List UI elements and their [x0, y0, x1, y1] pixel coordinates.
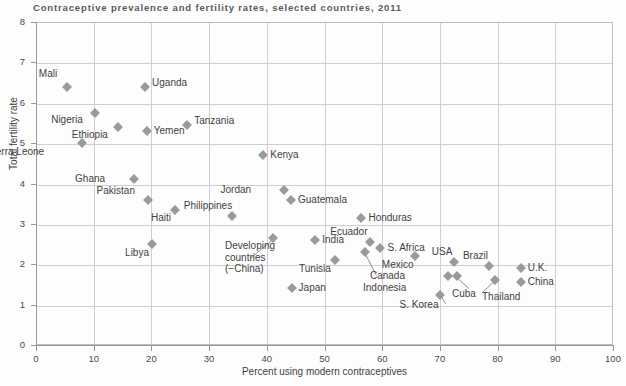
x-tick-label: 40: [252, 353, 282, 364]
y-tick-label: 2: [3, 258, 25, 269]
y-tick-label: 1: [3, 299, 25, 310]
x-tick-mark: [498, 346, 499, 351]
y-axis-line: [36, 22, 37, 346]
gridline-vertical: [267, 23, 268, 344]
gridline-horizontal: [37, 104, 612, 105]
data-point-label: Ghana: [75, 173, 105, 185]
gridline-horizontal: [37, 144, 612, 145]
gridline-vertical: [555, 23, 556, 344]
data-point-label: Japan: [299, 282, 326, 294]
data-point-label: Indonesia: [363, 282, 406, 294]
x-tick-label: 50: [310, 353, 340, 364]
y-tick-mark: [31, 345, 36, 346]
y-tick-mark: [31, 103, 36, 104]
data-point-label: Yemen: [154, 125, 185, 137]
data-point-label: U.K.: [528, 262, 547, 274]
gridline-horizontal: [37, 63, 612, 64]
x-tick-label: 20: [136, 353, 166, 364]
data-point-label: Sierra Leone: [0, 146, 44, 158]
data-point-label: Kenya: [270, 149, 298, 161]
gridline-horizontal: [37, 306, 612, 307]
data-point-label: Philippines: [184, 200, 232, 212]
x-tick-mark: [440, 346, 441, 351]
data-point-label: Mali: [39, 68, 57, 80]
y-tick-label: 3: [3, 218, 25, 229]
y-tick-label: 6: [3, 97, 25, 108]
gridline-vertical: [151, 23, 152, 344]
data-point-label: Pakistan: [97, 185, 135, 197]
x-tick-label: 90: [540, 353, 570, 364]
x-tick-label: 70: [425, 353, 455, 364]
data-point-label: Thailand: [482, 291, 520, 303]
x-tick-mark: [325, 346, 326, 351]
y-tick-mark: [31, 62, 36, 63]
x-tick-mark: [94, 346, 95, 351]
data-point-label: Libya: [125, 247, 149, 259]
data-point-label: Cuba: [452, 288, 476, 300]
y-axis-label: Total fertility rate: [8, 74, 19, 194]
gridline-vertical: [325, 23, 326, 344]
data-point-label: Tunisia: [299, 263, 331, 275]
y-tick-mark: [31, 224, 36, 225]
y-tick-mark: [31, 305, 36, 306]
data-point-label: USA: [432, 246, 453, 258]
data-point-label: Mexico: [382, 259, 414, 271]
x-tick-label: 30: [194, 353, 224, 364]
data-point-label: Uganda: [152, 77, 187, 89]
data-point-label: Nigeria: [51, 114, 83, 126]
y-tick-mark: [31, 184, 36, 185]
y-tick-label: 0: [3, 339, 25, 350]
x-axis-label: Percent using modern contraceptives: [36, 366, 613, 377]
x-tick-label: 80: [483, 353, 513, 364]
data-point-label: Jordan: [221, 184, 252, 196]
data-point-label: Honduras: [368, 212, 411, 224]
y-tick-label: 8: [3, 16, 25, 27]
data-point-label: Brazil: [463, 250, 488, 262]
y-tick-label: 4: [3, 178, 25, 189]
gridline-horizontal: [37, 225, 612, 226]
x-tick-label: 60: [367, 353, 397, 364]
x-tick-mark: [209, 346, 210, 351]
data-point-label: Tanzania: [194, 115, 234, 127]
x-tick-mark: [555, 346, 556, 351]
chart-title: Contraceptive prevalence and fertility r…: [33, 2, 402, 13]
data-point-label: S. Korea: [400, 299, 439, 311]
x-tick-label: 10: [79, 353, 109, 364]
data-point-label: S. Africa: [387, 242, 424, 254]
x-tick-label: 0: [21, 353, 51, 364]
x-tick-label: 100: [598, 353, 626, 364]
x-tick-mark: [613, 346, 614, 351]
data-point-label: Ethiopia: [72, 129, 108, 141]
gridline-vertical: [209, 23, 210, 344]
gridline-vertical: [382, 23, 383, 344]
plot-area: [36, 22, 613, 345]
y-tick-mark: [31, 143, 36, 144]
chart-figure: Contraceptive prevalence and fertility r…: [0, 0, 626, 386]
y-tick-mark: [31, 22, 36, 23]
y-tick-mark: [31, 264, 36, 265]
y-tick-label: 7: [3, 56, 25, 67]
data-point-label: China: [528, 276, 554, 288]
data-point-label: Canada: [370, 270, 405, 282]
x-tick-mark: [267, 346, 268, 351]
data-point-label: Guatemala: [298, 194, 347, 206]
x-tick-mark: [151, 346, 152, 351]
data-point-label: Haiti: [151, 212, 171, 224]
data-point-label: Ecuador: [330, 226, 367, 238]
data-point-label: Developingcountries(−China): [225, 240, 295, 275]
x-tick-mark: [382, 346, 383, 351]
x-tick-mark: [36, 346, 37, 351]
